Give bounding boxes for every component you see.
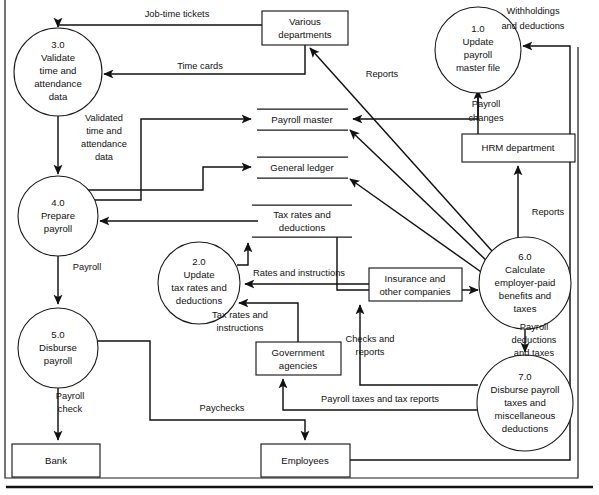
- datastore-general-ledger[interactable]: General ledger: [257, 157, 348, 178]
- process-6-calculate-employer-paid-benefits-and-taxes[interactable]: 6.0 Calculate employer-paid benefits and…: [479, 237, 571, 329]
- process-5-disburse-payroll[interactable]: 5.0 Disburse payroll: [18, 308, 98, 388]
- process-label-line: 1.0: [471, 23, 484, 34]
- flow-label-checks-and-reports: Checks and reports: [345, 334, 394, 357]
- dfd-svg: 1.0 Update payroll master file 2.0 Updat…: [0, 0, 599, 495]
- datastore-tax-rates-and-deductions[interactable]: Tax rates and deductions: [252, 205, 352, 237]
- entity-label-line: Bank: [45, 455, 67, 466]
- flow-label-line: data: [95, 152, 114, 162]
- datastore-payroll-master[interactable]: Payroll master: [257, 109, 348, 130]
- entity-label-line: departments: [278, 29, 332, 40]
- flow-label-withholdings-and-deductions: Withholdings and deductions: [501, 6, 564, 31]
- flow-label-payroll: Payroll: [73, 262, 101, 272]
- flow-job-time-tickets: [58, 25, 262, 27]
- process-label-line: 7.0: [518, 371, 531, 382]
- entity-employees[interactable]: Employees: [261, 444, 350, 477]
- flow-label-line: Payroll: [472, 99, 500, 109]
- diagram-canvas: 1.0 Update payroll master file 2.0 Updat…: [0, 0, 599, 495]
- flow-update-to-tax-rates: [237, 243, 248, 265]
- flow-label-reports-hrm: Reports: [532, 207, 565, 217]
- entity-label-line: other companies: [380, 286, 451, 297]
- datastore-label-line: Tax rates and: [273, 209, 331, 220]
- datastore-label: General ledger: [270, 162, 334, 173]
- process-7-disburse-payroll-taxes-and-miscellaneous-deductions[interactable]: 7.0 Disburse payroll taxes and miscellan…: [477, 355, 573, 451]
- flow-label-job-time-tickets: Job-time tickets: [145, 9, 210, 19]
- entity-label-line: agencies: [279, 360, 318, 371]
- process-3-validate-time-and-attendance-data[interactable]: 3.0 Validate time and attendance data: [14, 28, 102, 116]
- process-label-line: 5.0: [51, 329, 64, 340]
- process-label-line: payroll: [44, 355, 72, 366]
- entity-label-line: Government: [272, 347, 325, 358]
- flow-label-line: Validated: [85, 113, 123, 123]
- entity-label-line: Various: [289, 16, 321, 27]
- flow-label-line: Payroll: [520, 322, 548, 332]
- flow-label-time-cards: Time cards: [177, 61, 223, 71]
- process-label-line: deductions: [502, 423, 549, 434]
- flow-label-line: reports: [356, 347, 385, 357]
- flow-label-reports-departments: Reports: [366, 69, 399, 79]
- process-label-line: time and: [40, 65, 77, 76]
- process-label-line: master file: [456, 62, 500, 73]
- flow-label-rates-and-instructions: Rates and instructions: [253, 268, 345, 278]
- flow-label-line: Withholdings: [506, 6, 560, 16]
- flow-label-line: check: [58, 404, 83, 414]
- process-label-line: taxes and: [504, 397, 546, 408]
- datastore-label-line: deductions: [279, 222, 326, 233]
- entity-insurance-and-other-companies[interactable]: Insurance and other companies: [369, 268, 462, 301]
- flow-label-line: time and: [86, 126, 122, 136]
- process-1-update-payroll-master-file[interactable]: 1.0 Update payroll master file: [435, 7, 521, 93]
- process-label-line: Validate: [41, 52, 75, 63]
- process-label-line: 4.0: [51, 197, 64, 208]
- process-label-line: attendance: [34, 78, 81, 89]
- process-label-line: deductions: [176, 295, 223, 306]
- entity-bank[interactable]: Bank: [12, 444, 100, 477]
- flow-label-line: deductions: [512, 335, 557, 345]
- flow-prepare-to-general-ledger: [86, 167, 251, 190]
- process-label-line: payroll: [464, 49, 492, 60]
- entity-various-departments[interactable]: Various departments: [262, 11, 348, 45]
- flow-label-line: changes: [468, 113, 504, 123]
- process-label-line: benefits and: [499, 290, 551, 301]
- process-label-line: taxes: [514, 303, 537, 314]
- process-label-line: miscellaneous: [495, 410, 556, 421]
- flow-label-line: Checks and: [345, 334, 394, 344]
- process-label-line: Update: [463, 36, 494, 47]
- process-label-line: Disburse: [39, 342, 77, 353]
- entity-label-line: HRM department: [481, 142, 554, 153]
- datastore-label: Payroll master: [271, 114, 333, 125]
- flow-label-payroll-taxes-and-tax-reports: Payroll taxes and tax reports: [321, 394, 439, 404]
- process-label-line: payroll: [44, 223, 72, 234]
- flow-label-line: and taxes: [514, 348, 555, 358]
- flow-label-line: Tax rates and: [212, 310, 268, 320]
- process-label-line: Calculate: [505, 264, 545, 275]
- process-4-prepare-payroll[interactable]: 4.0 Prepare payroll: [18, 176, 98, 256]
- entity-label-line: Employees: [281, 455, 329, 466]
- flow-label-payroll-changes: Payroll changes: [468, 99, 504, 123]
- process-label-line: 6.0: [518, 251, 531, 262]
- process-label-line: Prepare: [41, 210, 75, 221]
- process-label-line: data: [49, 91, 68, 102]
- flow-checks-and-reports: [360, 305, 478, 385]
- process-label-line: Disburse payroll: [491, 384, 560, 395]
- flow-label-line: and deductions: [501, 21, 564, 31]
- flow-label-line: attendance: [81, 139, 127, 149]
- process-label-line: Update: [184, 269, 215, 280]
- flow-label-line: instructions: [216, 323, 263, 333]
- flow-label-line: Payroll: [56, 391, 84, 401]
- flow-label-validated-data: Validated time and attendance data: [81, 113, 127, 162]
- flow-label-payroll-check: Payroll check: [56, 391, 84, 414]
- entity-government-agencies[interactable]: Government agencies: [256, 342, 341, 375]
- flow-label-tax-rates-and-instructions: Tax rates and instructions: [212, 310, 268, 333]
- flow-label-paychecks: Paychecks: [200, 403, 245, 413]
- entity-hrm-department[interactable]: HRM department: [462, 134, 575, 162]
- entity-label-line: Insurance and: [385, 273, 446, 284]
- process-label-line: employer-paid: [495, 277, 556, 288]
- process-label-line: 3.0: [51, 39, 64, 50]
- process-label-line: tax rates and: [171, 282, 226, 293]
- flow-update-master-to-payroll-master: [353, 93, 478, 119]
- process-label-line: 2.0: [192, 256, 205, 267]
